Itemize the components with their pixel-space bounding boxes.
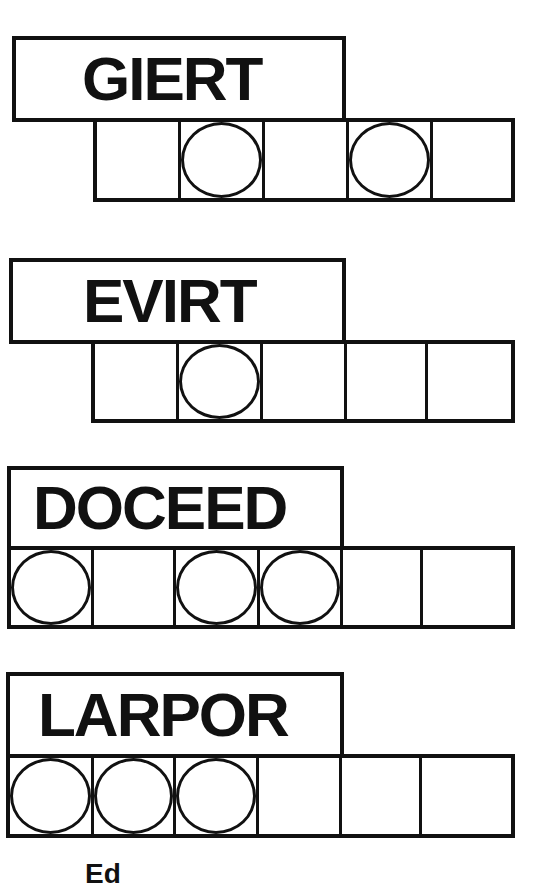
answer-cells: [91, 340, 515, 423]
circle-marker-icon: [179, 344, 260, 419]
answer-cell-5[interactable]: [343, 550, 423, 625]
answer-cell-3-circled[interactable]: [176, 758, 259, 834]
answer-cell-4[interactable]: [347, 344, 428, 419]
scrambled-word-box: GIERT: [12, 36, 346, 122]
circle-marker-icon: [10, 758, 91, 834]
answer-cell-2-circled[interactable]: [179, 344, 263, 419]
answer-cells: [7, 546, 515, 629]
circle-marker-icon: [11, 550, 91, 625]
answer-cell-2-circled[interactable]: [181, 122, 265, 198]
answer-cell-3[interactable]: [265, 122, 349, 198]
circle-marker-icon: [181, 122, 262, 198]
scrambled-word: LARPOR: [38, 684, 288, 746]
scrambled-word: GIERT: [82, 48, 261, 110]
scrambled-word: DOCEED: [33, 477, 286, 539]
answer-cell-4-circled[interactable]: [260, 550, 343, 625]
answer-cell-1[interactable]: [95, 344, 179, 419]
answer-cell-1[interactable]: [97, 122, 181, 198]
answer-cell-6[interactable]: [422, 758, 511, 834]
circle-marker-icon: [176, 758, 256, 834]
answer-cell-1-circled[interactable]: [11, 550, 94, 625]
answer-cell-5[interactable]: [342, 758, 422, 834]
answer-cell-5[interactable]: [428, 344, 511, 419]
cartoon-caption-fragment: Ed: [85, 858, 121, 887]
answer-cell-5[interactable]: [433, 122, 511, 198]
scrambled-word-box: LARPOR: [6, 672, 344, 758]
scrambled-word-box: EVIRT: [9, 258, 346, 344]
answer-cells: [6, 754, 515, 838]
circle-marker-icon: [260, 550, 340, 625]
circle-marker-icon: [176, 550, 257, 625]
scrambled-word-box: DOCEED: [7, 466, 344, 550]
answer-cells: [93, 118, 515, 202]
answer-cell-6[interactable]: [423, 550, 511, 625]
answer-cell-1-circled[interactable]: [10, 758, 94, 834]
scrambled-word: EVIRT: [83, 270, 256, 332]
answer-cell-2[interactable]: [94, 550, 176, 625]
answer-cell-2-circled[interactable]: [94, 758, 176, 834]
circle-marker-icon: [94, 758, 173, 834]
answer-cell-4-circled[interactable]: [349, 122, 433, 198]
answer-cell-3[interactable]: [263, 344, 347, 419]
circle-marker-icon: [349, 122, 430, 198]
answer-cell-4[interactable]: [259, 758, 342, 834]
answer-cell-3-circled[interactable]: [176, 550, 260, 625]
